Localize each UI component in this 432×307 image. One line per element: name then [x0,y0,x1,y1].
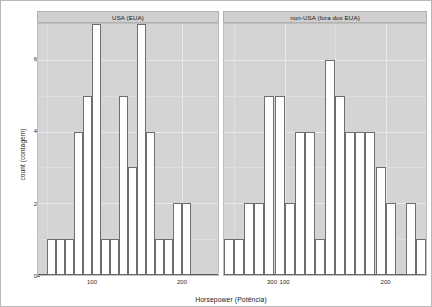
histogram-bar [146,132,155,275]
histogram-bar [386,203,396,275]
gridline-horizontal [38,275,218,276]
x-tick-label: 200 [381,279,391,285]
histogram-bar [47,239,56,275]
gridline-horizontal [38,60,218,61]
facet-panel-usa: USA (EUA) [37,11,219,276]
facet-strip-label-usa: USA (EUA) [37,11,219,23]
histogram-bar [155,239,164,275]
histogram-bar [224,239,234,275]
plot-area-usa [37,23,219,276]
histogram-bar [65,239,74,275]
histogram-bar [335,96,345,275]
gridline-vertical-minor [234,24,235,275]
histogram-bar [244,203,254,275]
histogram-bar [137,24,146,275]
histogram-bar [275,96,285,275]
histogram-bar [128,167,137,275]
histogram-bar [110,239,119,275]
gridline-horizontal [38,132,218,133]
gridline-vertical-minor [47,24,48,275]
histogram-bar [164,239,173,275]
x-tick-label: 100 [87,279,97,285]
histogram-bar [119,96,128,275]
histogram-bar [234,239,244,275]
histogram-bar [264,96,274,275]
gridline-horizontal [224,275,426,276]
histogram-bar [56,239,65,275]
histogram-bar [406,203,416,275]
histogram-bar [92,24,101,275]
gridline-horizontal-minor [38,96,218,97]
histogram-bar [285,203,295,275]
y-tick-label: 6 [23,56,37,62]
x-tick-mark [285,275,286,276]
chart-figure: count (contagem) 0246 USA (EUA) non-USA … [0,0,432,307]
histogram-bar [305,132,315,275]
histogram-bar [173,203,182,275]
x-tick-label: 100 [280,279,290,285]
histogram-bar [325,60,335,275]
x-axis-label: Horsepower (Potência) [37,296,425,303]
histogram-bar [416,239,426,275]
histogram-bar [295,132,305,275]
histogram-bar [365,132,375,275]
x-tick-mark [386,275,387,276]
histogram-bar [315,239,325,275]
x-tick-label: 200 [177,279,187,285]
y-tick-mark [37,276,40,277]
x-tick-mark [92,275,93,276]
histogram-bar [101,239,110,275]
facet-panel-non-usa: non-USA (fora dos EUA) [223,11,427,276]
histogram-bar [83,96,92,275]
histogram-bar [74,132,83,275]
histogram-bar [376,167,386,275]
x-tick-mark [182,275,183,276]
y-tick-label: 4 [23,128,37,134]
histogram-bar [182,203,191,275]
histogram-bar [345,132,355,275]
histogram-bar [254,203,264,275]
y-tick-label: 2 [23,201,37,207]
y-axis: 0246 [21,11,37,276]
facet-strip-label-non-usa: non-USA (fora dos EUA) [223,11,427,23]
x-tick-label: 300 [267,279,277,285]
y-tick-label: 0 [23,273,37,279]
histogram-bar [355,132,365,275]
plot-area-non-usa [223,23,427,276]
